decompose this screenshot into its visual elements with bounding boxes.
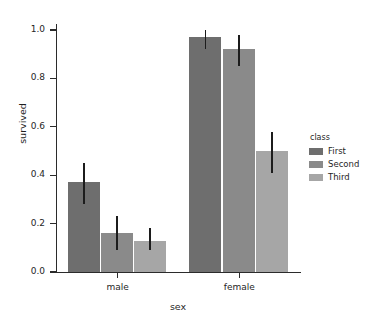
error-bar bbox=[205, 30, 207, 49]
y-tick bbox=[50, 29, 56, 30]
x-axis-label: sex bbox=[0, 301, 356, 312]
legend-swatch-icon bbox=[309, 148, 323, 155]
error-bar bbox=[149, 228, 151, 250]
error-bar bbox=[116, 216, 118, 250]
y-tick-label: 0.2 bbox=[31, 219, 45, 228]
error-bar bbox=[271, 132, 273, 173]
error-bar bbox=[238, 35, 240, 66]
x-tick-label: female bbox=[224, 282, 255, 292]
y-tick-label: 0.0 bbox=[31, 267, 45, 276]
y-tick-label: 0.8 bbox=[31, 73, 45, 82]
x-tick-label: male bbox=[107, 282, 129, 292]
legend-swatch-icon bbox=[309, 161, 323, 168]
legend-item[interactable]: Second bbox=[309, 158, 359, 171]
legend-item[interactable]: Third bbox=[309, 171, 359, 184]
legend-swatch-icon bbox=[309, 174, 323, 181]
y-axis-label: survived bbox=[17, 0, 28, 274]
legend-title: class bbox=[310, 134, 359, 142]
y-tick bbox=[50, 223, 56, 224]
legend: class FirstSecondThird bbox=[309, 134, 359, 184]
bar bbox=[189, 37, 221, 272]
y-tick bbox=[50, 126, 56, 127]
legend-entries: FirstSecondThird bbox=[309, 145, 359, 184]
x-tick bbox=[239, 272, 240, 278]
y-tick-label: 0.6 bbox=[31, 122, 45, 131]
error-bar bbox=[83, 163, 85, 204]
legend-item[interactable]: First bbox=[309, 145, 359, 158]
figure-canvas: 0.00.20.40.60.81.0 malefemale sex surviv… bbox=[0, 0, 371, 324]
y-tick bbox=[50, 271, 56, 272]
y-tick-label: 0.4 bbox=[31, 170, 45, 179]
legend-item-label: First bbox=[328, 147, 346, 156]
y-tick bbox=[50, 175, 56, 176]
plot-area bbox=[57, 30, 300, 272]
bar bbox=[223, 49, 255, 272]
legend-item-label: Third bbox=[328, 173, 350, 182]
y-tick bbox=[50, 78, 56, 79]
x-tick bbox=[117, 272, 118, 278]
y-tick-label: 1.0 bbox=[31, 25, 45, 34]
legend-item-label: Second bbox=[328, 160, 359, 169]
